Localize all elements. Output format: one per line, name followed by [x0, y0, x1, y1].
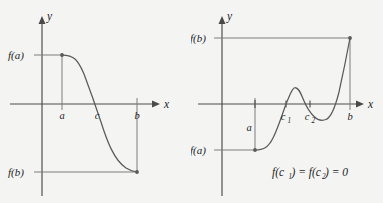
left-y-axis	[39, 16, 46, 196]
right-tick-label-a: a	[246, 122, 251, 133]
right-curve-end-point	[348, 36, 352, 40]
caption-tail: ) = 0	[324, 166, 348, 179]
right-tick-label-c2-subscript: 2	[312, 117, 316, 125]
caption-f-open: f(c	[272, 166, 284, 179]
right-label-fa: f(a)	[191, 144, 206, 157]
left-tick-label-a: a	[59, 110, 64, 121]
left-tick-label-b: b	[134, 110, 139, 121]
left-curve	[62, 55, 137, 172]
right-caption-equation: f(c 1 ) = f(c 2 ) = 0	[272, 166, 348, 181]
right-x-axis	[198, 101, 364, 108]
right-label-fb: f(b)	[191, 32, 206, 45]
right-tick-label-b: b	[347, 111, 352, 122]
left-x-axis-label: x	[163, 98, 170, 110]
left-tick-label-c: c	[95, 110, 100, 121]
right-panel: x y f(b) f(a) a	[191, 0, 383, 203]
right-tick-label-c1: c 1	[281, 111, 291, 125]
left-guide-fb	[34, 98, 137, 172]
right-x-axis-label: x	[367, 98, 374, 110]
figure-root: x y f(a) f(b) a c b	[0, 0, 383, 203]
left-guide-fa	[34, 55, 62, 110]
right-tick-label-c1-base: c	[281, 111, 286, 122]
right-guide-fb	[214, 38, 350, 110]
right-y-axis	[219, 16, 226, 196]
right-tick-label-c1-subscript: 1	[288, 117, 292, 125]
right-tick-label-c2-base: c	[305, 111, 310, 122]
left-label-fa: f(a)	[8, 49, 24, 62]
left-y-axis-label: y	[46, 10, 53, 23]
caption-mid: ) = f(c	[291, 166, 321, 179]
right-curve-start-point	[253, 148, 257, 152]
right-curve	[255, 38, 350, 150]
left-label-fb: f(b)	[8, 166, 24, 179]
right-tick-label-c2: c 2	[305, 111, 316, 125]
left-curve-start-point	[60, 53, 64, 57]
left-panel: x y f(a) f(b) a c b	[0, 0, 192, 203]
right-y-axis-label: y	[226, 10, 233, 23]
left-curve-end-point	[135, 170, 139, 174]
